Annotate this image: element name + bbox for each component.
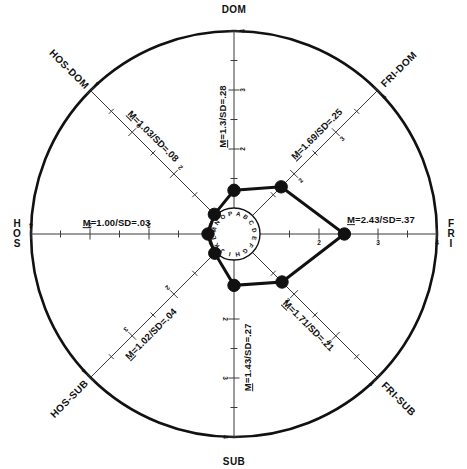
tick-label-hos-sub-3: 3 bbox=[122, 326, 130, 334]
vertex-hos-sub bbox=[209, 247, 221, 259]
axis-name-fri-dom: FRI-DOM bbox=[379, 49, 419, 89]
vertex-hos-dom bbox=[208, 208, 220, 220]
tick-label-dom-4: 4 bbox=[239, 29, 246, 33]
axis-name-char: I bbox=[450, 238, 453, 249]
tick-label-hos-4: 4 bbox=[29, 222, 33, 229]
tick-label-fri-3: 3 bbox=[376, 239, 380, 246]
stat-label-fri: M=2.43/SD=.37 bbox=[347, 214, 415, 225]
axis-name-hos-dom: HOS-DOM bbox=[47, 47, 91, 91]
vertex-fri bbox=[338, 228, 350, 240]
tick-label-fri-dom-3: 3 bbox=[338, 134, 346, 142]
tick-label-hos-sub-2: 2 bbox=[164, 284, 172, 292]
axis-name-hos: HOS bbox=[13, 218, 21, 249]
tick-label-sub-4: 4 bbox=[222, 435, 229, 439]
stat-label-sub: M=1.43/SD=.27 bbox=[242, 323, 253, 391]
tick-label-sub-3: 3 bbox=[222, 376, 229, 380]
tick-label-fri-dom-2: 2 bbox=[297, 176, 305, 184]
tick-label-sub-2: 2 bbox=[222, 317, 229, 321]
stat-label-fri-sub: M=1.71/SD=.21 bbox=[281, 297, 337, 353]
stat-label-hos: M=1.00/SD=.03 bbox=[83, 217, 151, 228]
axis-name-fri-sub: FRI-SUB bbox=[380, 380, 418, 418]
circumplex-figure: 234234234234234234234234 ABCDEFGHIJKLMNO… bbox=[0, 0, 467, 469]
tick-label-dom-3: 3 bbox=[239, 88, 246, 92]
stat-label-hos-sub: M=1.02/SD=.04 bbox=[123, 305, 179, 361]
vertex-fri-sub bbox=[276, 276, 288, 288]
vertex-hos bbox=[202, 228, 214, 240]
stat-label-fri-dom: M=1.69/SD=.25 bbox=[289, 106, 345, 162]
vertex-dom bbox=[228, 184, 240, 196]
tick-label-hos-dom-2: 2 bbox=[176, 164, 184, 172]
axis-name-char: S bbox=[14, 238, 21, 249]
axis-name-dom: DOM bbox=[222, 4, 247, 15]
radar-chart: 234234234234234234234234 ABCDEFGHIJKLMNO… bbox=[0, 0, 467, 469]
stat-label-hos-dom: M=1.03/SD=.08 bbox=[126, 108, 182, 164]
stat-label-dom: M=1.3/SD=.28 bbox=[217, 85, 228, 147]
axis-name-hos-sub: HOS-SUB bbox=[48, 378, 90, 420]
vertex-fri-dom bbox=[275, 181, 287, 193]
tick-label-dom-2: 2 bbox=[239, 147, 246, 151]
vertex-sub bbox=[228, 279, 240, 291]
axis-name-sub: SUB bbox=[223, 456, 245, 467]
tick-label-fri-4: 4 bbox=[435, 239, 439, 246]
tick-label-fri-2: 2 bbox=[317, 239, 321, 246]
axis-name-fri: FRI bbox=[447, 218, 455, 249]
